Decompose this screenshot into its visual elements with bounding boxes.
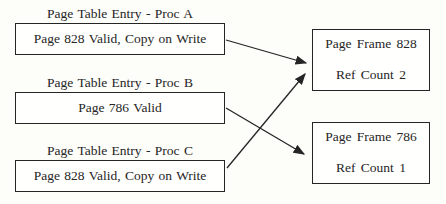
pte-proc-a-title: Page Table Entry - Proc A <box>15 6 225 21</box>
pte-proc-a-content: Page 828 Valid, Copy on Write <box>34 31 207 47</box>
pte-proc-c-title: Page Table Entry - Proc C <box>15 143 225 158</box>
pte-proc-c-box: Page 828 Valid, Copy on Write <box>15 160 225 192</box>
page-frame-828-box: Page Frame 828 Ref Count 2 <box>312 29 430 91</box>
pte-proc-c-content: Page 828 Valid, Copy on Write <box>34 168 207 184</box>
page-frame-828-ref-count: Ref Count 2 <box>313 67 429 83</box>
pte-proc-a-box: Page 828 Valid, Copy on Write <box>15 23 225 55</box>
page-frame-828-title: Page Frame 828 <box>313 36 429 52</box>
pte-proc-b-title: Page Table Entry - Proc B <box>15 75 225 90</box>
arrow-proc-c-to-frame-828 <box>227 74 305 168</box>
pte-proc-b-content: Page 786 Valid <box>78 100 162 116</box>
copy-on-write-page-table-diagram: Page Table Entry - Proc A Page 828 Valid… <box>0 0 446 204</box>
page-frame-786-title: Page Frame 786 <box>313 129 429 145</box>
pte-proc-b-box: Page 786 Valid <box>15 92 225 124</box>
arrow-proc-b-to-frame-786 <box>226 108 304 154</box>
page-frame-786-ref-count: Ref Count 1 <box>313 160 429 176</box>
page-frame-786-box: Page Frame 786 Ref Count 1 <box>312 122 430 184</box>
arrow-proc-a-to-frame-828 <box>226 40 306 63</box>
